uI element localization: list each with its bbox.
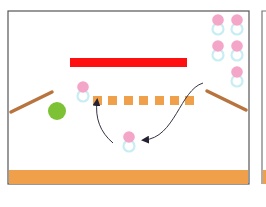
token-head xyxy=(231,14,243,26)
orange-block xyxy=(124,96,133,105)
orange-block xyxy=(108,96,117,105)
token-head xyxy=(77,81,89,93)
red-bar xyxy=(70,58,187,67)
arrow-to-token xyxy=(144,83,203,140)
motion-arrows xyxy=(97,83,203,143)
token-on-row xyxy=(77,81,89,101)
block-row xyxy=(93,96,194,105)
orange-block xyxy=(155,96,164,105)
scene-canvas xyxy=(0,0,266,207)
right-ramp xyxy=(207,91,246,110)
token-stack-1 xyxy=(212,14,224,34)
orange-block xyxy=(139,96,148,105)
token-head xyxy=(231,40,243,52)
orange-floor-next xyxy=(263,170,266,184)
orange-block xyxy=(170,96,179,105)
orange-floor xyxy=(9,170,248,184)
orange-block xyxy=(93,96,102,105)
token-head xyxy=(123,131,135,143)
arrow-up-to-block xyxy=(97,101,113,143)
token-stack-5 xyxy=(231,66,243,86)
left-ramp xyxy=(11,92,52,112)
token-stack-2 xyxy=(231,14,243,34)
token-head xyxy=(212,40,224,52)
token-stack-3 xyxy=(212,40,224,60)
token-floating xyxy=(123,131,135,151)
next-frame-edge xyxy=(262,11,266,184)
token-stack-4 xyxy=(231,40,243,60)
token-head xyxy=(212,14,224,26)
token-head xyxy=(231,66,243,78)
green-ball xyxy=(48,102,66,120)
